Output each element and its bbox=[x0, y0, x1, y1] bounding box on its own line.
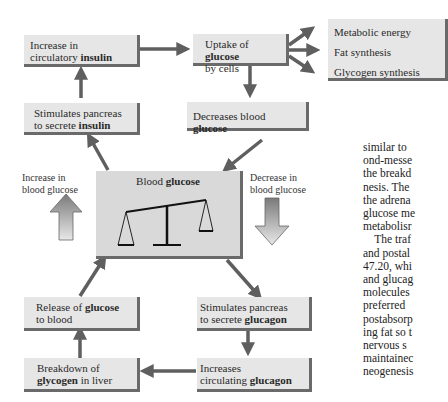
label: circulatory bbox=[30, 51, 80, 63]
label: Decreases blood bbox=[193, 110, 265, 122]
arrow-center-to-stim-glucagon bbox=[227, 260, 258, 295]
text-line: the breakd bbox=[363, 167, 415, 180]
text-line: glucose me bbox=[363, 207, 415, 220]
box-blood-glucose: Blood glucose bbox=[96, 171, 243, 259]
arrow-release-to-center bbox=[80, 260, 103, 296]
box-increase-insulin: Increase in circulatory insulin bbox=[24, 35, 140, 67]
box-increase-glucagon: Increases circulating glucagon bbox=[197, 358, 312, 392]
text-line: The traf bbox=[363, 233, 415, 246]
increase-arrow-icon bbox=[50, 194, 82, 240]
outcome-fat-synthesis: Fat synthesis bbox=[334, 42, 439, 62]
label: by cells bbox=[205, 62, 239, 74]
outcome-glycogen-synthesis: Glycogen synthesis bbox=[334, 62, 439, 82]
box-stimulate-glucagon: Stimulates pancreas to secrete glucagon bbox=[197, 297, 312, 331]
text-line: nervous s bbox=[363, 339, 415, 352]
label: Decrease in bbox=[250, 172, 297, 183]
text-line: neogenesis bbox=[363, 365, 415, 378]
label: blood glucose bbox=[22, 184, 78, 195]
label: to blood bbox=[36, 313, 72, 325]
label: Stimulates pancreas bbox=[200, 301, 288, 313]
increase-blood-glucose-label: Increase in blood glucose bbox=[22, 172, 78, 196]
decrease-blood-glucose-label: Decrease in blood glucose bbox=[250, 172, 306, 196]
label: to secrete bbox=[34, 119, 79, 131]
label-bold: glucose bbox=[193, 122, 227, 134]
label: circulating bbox=[200, 374, 250, 386]
text-line: ing fat so t bbox=[363, 326, 415, 339]
text-line: similar to bbox=[363, 141, 415, 154]
label-bold: insulin bbox=[80, 51, 112, 63]
box-uptake: Uptake of glucose by cells bbox=[193, 34, 289, 66]
label: Increase in bbox=[22, 172, 66, 183]
outcome-metabolic-energy: Metabolic energy bbox=[334, 22, 439, 42]
label: blood glucose bbox=[250, 184, 306, 195]
label: Breakdown of bbox=[37, 362, 100, 374]
box-outcomes: Metabolic energy Fat synthesis Glycogen … bbox=[328, 19, 448, 81]
text-line: 47.20, whi bbox=[363, 260, 415, 273]
text-line: nesis. The bbox=[363, 181, 415, 194]
text-line: and glucag bbox=[363, 273, 415, 286]
label: to secrete bbox=[200, 313, 245, 325]
label-bold: glucose bbox=[205, 50, 239, 62]
text-line: ond-messe bbox=[363, 154, 415, 167]
text-line: metabolisr bbox=[363, 220, 415, 233]
label-bold: insulin bbox=[79, 119, 111, 131]
text-line: the adrena bbox=[363, 194, 415, 207]
text-line: preferred bbox=[363, 299, 415, 312]
label: in liver bbox=[78, 374, 112, 386]
box-release-glucose: Release of glucose to blood bbox=[24, 297, 140, 331]
text-line: postabsorp bbox=[363, 313, 415, 326]
box-decrease-glucose: Decreases blood glucose bbox=[187, 102, 309, 131]
label-bold: glucagon bbox=[245, 313, 287, 325]
box-breakdown-glycogen: Breakdown of glycogen in liver bbox=[24, 358, 140, 392]
label: Increase in bbox=[30, 39, 78, 51]
arrow-center-to-stim-insulin bbox=[90, 138, 108, 170]
label: Uptake of bbox=[205, 38, 249, 50]
label: Stimulates pancreas bbox=[34, 107, 122, 119]
label: Increases bbox=[200, 362, 241, 374]
label: Release of bbox=[36, 301, 85, 313]
box-stimulate-insulin: Stimulates pancreas to secrete insulin bbox=[24, 103, 140, 135]
label-bold: glucagon bbox=[250, 374, 292, 386]
label-bold: glycogen bbox=[37, 374, 78, 386]
decrease-arrow-icon bbox=[255, 198, 289, 245]
label-bold: glucose bbox=[85, 301, 119, 313]
text-line: maintainec bbox=[363, 352, 415, 365]
balance-scale-icon bbox=[96, 171, 243, 259]
text-line: molecules bbox=[363, 286, 415, 299]
body-text-column: similar to ond-messe the breakd nesis. T… bbox=[363, 141, 415, 379]
arrow-decrease-to-center bbox=[227, 140, 262, 168]
text-line: and postal bbox=[363, 247, 415, 260]
